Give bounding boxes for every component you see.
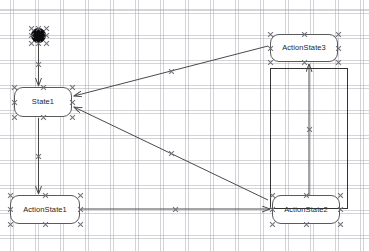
handle-actionstate2-7[interactable] bbox=[337, 221, 344, 228]
handle-e5-mid[interactable] bbox=[168, 150, 175, 157]
handle-actionstate3-7[interactable] bbox=[335, 59, 342, 66]
node-actionstate3[interactable]: ActionState3 bbox=[270, 34, 338, 62]
node-initial-state[interactable] bbox=[31, 28, 46, 43]
handle-e1-mid[interactable] bbox=[35, 61, 42, 68]
group-region-rect[interactable] bbox=[270, 68, 348, 209]
handle-e2-mid[interactable] bbox=[35, 153, 42, 160]
node-state1-label: State1 bbox=[32, 98, 54, 106]
edge-actionstate2-to-state1[interactable] bbox=[74, 107, 268, 200]
diagram-canvas[interactable]: State1 ActionState1 ActionState2 ActionS… bbox=[0, 0, 369, 251]
node-actionstate3-label: ActionState3 bbox=[282, 44, 326, 52]
handle-state1-7[interactable] bbox=[69, 114, 76, 121]
node-actionstate1-label: ActionState1 bbox=[23, 206, 67, 214]
handle-e4-mid[interactable] bbox=[168, 68, 175, 75]
handle-e3-mid[interactable] bbox=[172, 206, 179, 213]
handle-actionstate1-7[interactable] bbox=[77, 221, 84, 228]
node-actionstate1[interactable]: ActionState1 bbox=[10, 195, 80, 224]
edge-actionstate3-to-state1[interactable] bbox=[74, 46, 268, 96]
node-state1[interactable]: State1 bbox=[14, 87, 72, 117]
